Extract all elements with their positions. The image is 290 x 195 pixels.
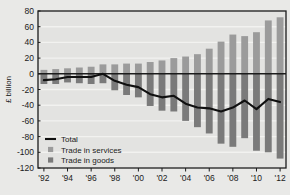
bar-trade-in-services [64,68,71,73]
bar-trade-in-goods [218,74,225,144]
y-tick-label: -60 [22,116,35,126]
x-tick-label: '08 [227,173,238,183]
bar-trade-in-goods [76,74,83,83]
x-tick-label: '98 [109,173,120,183]
legend-label-total: Total [61,135,78,144]
bar-trade-in-services [229,35,236,74]
y-tick-label: -120 [17,163,34,173]
x-tick-label: '94 [62,173,73,183]
y-axis-title: £ billion [4,76,13,103]
x-tick-label: '12 [275,173,286,183]
legend-label-trade-in-goods: Trade in goods [61,156,114,165]
chart-figure: 806040200-20-40-60-80-100-120'92'94'96'9… [0,0,290,195]
bar-trade-in-services [182,57,189,74]
y-tick-label: 0 [29,69,34,79]
bar-trade-in-services [241,36,248,74]
x-tick-label: '92 [38,173,49,183]
bar-trade-in-services [100,64,107,73]
y-tick-label: 60 [25,22,35,32]
bar-trade-in-services [265,20,272,73]
bar-trade-in-goods [135,74,142,98]
y-tick-label: -100 [17,147,34,157]
bar-trade-in-services [277,17,284,74]
bar-trade-in-services [218,42,225,74]
bar-trade-in-services [88,67,95,74]
bar-trade-in-services [206,49,213,74]
bar-trade-in-services [123,64,130,74]
legend-swatch-trade-in-goods [48,157,53,162]
bar-trade-in-goods [265,74,272,153]
y-tick-label: 40 [25,37,35,47]
bar-trade-in-goods [182,74,189,121]
trade-balance-chart: 806040200-20-40-60-80-100-120'92'94'96'9… [0,0,290,195]
x-tick-label: '04 [180,173,191,183]
bar-trade-in-goods [253,74,260,151]
legend-swatch-trade-in-services [48,147,53,152]
bar-trade-in-services [159,60,166,73]
bar-trade-in-services [253,32,260,74]
bar-trade-in-goods [147,74,154,106]
bar-trade-in-services [135,64,142,74]
y-tick-label: -80 [22,132,35,142]
bar-trade-in-services [147,62,154,74]
bar-trade-in-goods [170,74,177,112]
y-tick-label: 80 [25,6,35,16]
bar-trade-in-goods [277,74,284,159]
bar-trade-in-services [194,54,201,74]
y-tick-label: -20 [22,85,35,95]
x-tick-label: '00 [133,173,144,183]
x-tick-label: '10 [251,173,262,183]
x-tick-label: '96 [86,173,97,183]
legend-label-trade-in-services: Trade in services [61,146,122,155]
bar-trade-in-services [170,58,177,74]
bar-trade-in-services [76,68,83,74]
bar-trade-in-goods [159,74,166,111]
y-tick-label: -40 [22,100,35,110]
y-tick-label: 20 [25,53,35,63]
bar-trade-in-goods [229,74,236,147]
x-tick-label: '02 [156,173,167,183]
bar-trade-in-services [111,64,118,73]
bar-trade-in-goods [194,74,201,127]
x-tick-label: '06 [204,173,215,183]
bar-trade-in-goods [241,74,248,138]
bar-trade-in-goods [206,74,213,134]
